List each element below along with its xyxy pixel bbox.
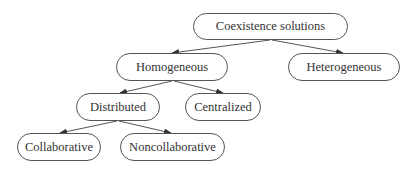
node-homogeneous: Homogeneous: [116, 53, 228, 81]
edge-distributed-to-noncollaborative: [119, 121, 171, 133]
node-coexistence-solutions: Coexistence solutions: [193, 13, 348, 40]
node-noncollaborative: Noncollaborative: [120, 133, 225, 161]
node-distributed: Distributed: [76, 93, 160, 121]
node-collaborative: Collaborative: [17, 133, 101, 161]
node-heterogeneous: Heterogeneous: [288, 53, 400, 81]
edge-root-to-heterogeneous: [272, 40, 343, 53]
edge-root-to-homogeneous: [172, 40, 270, 53]
edge-homogeneous-to-distributed: [120, 81, 172, 93]
edge-homogeneous-to-centralized: [174, 81, 223, 93]
node-centralized: Centralized: [185, 93, 261, 121]
edge-distributed-to-collaborative: [60, 121, 117, 133]
